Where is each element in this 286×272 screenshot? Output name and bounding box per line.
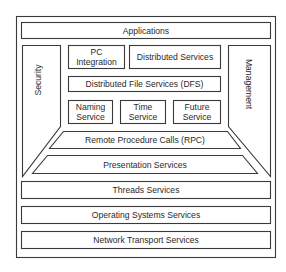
future-service-label-2: Service <box>183 112 212 122</box>
presentation-label: Presentation Services <box>103 160 187 170</box>
management-label: Management <box>244 59 254 110</box>
dfs-label: Distributed File Services (DFS) <box>86 79 204 89</box>
future-service-label-1: Future <box>185 102 210 112</box>
network-label: Network Transport Services <box>93 235 199 245</box>
time-service-label-1: Time <box>134 102 153 112</box>
naming-service-label-2: Service <box>76 112 105 122</box>
time-service-label-2: Service <box>129 112 158 122</box>
distributed-services-label: Distributed Services <box>137 52 213 62</box>
pc-integration-label-1: PC <box>91 47 103 57</box>
architecture-diagram: Applications PC Integration Distributed … <box>0 0 286 272</box>
os-label: Operating Systems Services <box>92 210 200 220</box>
applications-label: Applications <box>123 26 169 36</box>
threads-label: Threads Services <box>113 185 180 195</box>
pc-integration-label-2: Integration <box>76 57 117 67</box>
security-label: Security <box>33 64 43 96</box>
naming-service-label-1: Naming <box>76 102 106 112</box>
rpc-label: Remote Procedure Calls (RPC) <box>85 135 205 145</box>
